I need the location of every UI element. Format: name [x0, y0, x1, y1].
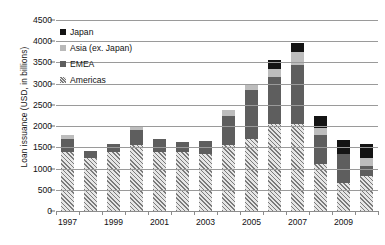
- bar-2008: [314, 20, 327, 211]
- legend-item-asia: Asia (ex. Japan): [60, 40, 180, 56]
- bar-segment: [222, 145, 235, 211]
- bar-segment: [314, 135, 327, 165]
- bar-segment: [61, 152, 74, 211]
- x-tick-label: 1997: [48, 217, 88, 227]
- gridline: [56, 169, 378, 170]
- bar-2005: [245, 20, 258, 211]
- gridline: [56, 147, 378, 148]
- bar-segment: [291, 65, 304, 124]
- legend-label-asia: Asia (ex. Japan): [70, 44, 132, 53]
- bar-segment: [314, 128, 327, 134]
- y-tick-label: 2000: [12, 121, 52, 131]
- x-tick-mark: [378, 211, 379, 215]
- y-tick-label: 4500: [12, 15, 52, 25]
- bar-segment: [153, 139, 166, 152]
- bar-segment: [153, 152, 166, 211]
- bar-segment: [337, 183, 350, 211]
- y-tick-label: 2500: [12, 100, 52, 110]
- bar-2003: [199, 20, 212, 211]
- bar-segment: [245, 90, 258, 139]
- bar-segment: [360, 158, 373, 166]
- bar-segment: [84, 158, 97, 211]
- bar-segment: [291, 124, 304, 211]
- legend-swatch-japan-icon: [60, 29, 66, 35]
- legend-label-japan: Japan: [70, 28, 93, 37]
- bar-segment: [107, 152, 120, 211]
- legend-label-americas: Americas: [70, 76, 106, 85]
- legend-item-americas: Americas: [60, 72, 180, 88]
- x-tick-label: 2003: [186, 217, 226, 227]
- bar-2006: [268, 20, 281, 211]
- legend-label-emea: EMEA: [70, 60, 94, 69]
- bar-segment: [130, 127, 143, 130]
- bar-segment: [130, 130, 143, 145]
- y-tick-label: 500: [12, 185, 52, 195]
- y-tick-label: 0: [12, 206, 52, 216]
- bar-2010: [360, 20, 373, 211]
- bar-segment: [61, 135, 74, 138]
- legend-swatch-americas-icon: [60, 77, 66, 83]
- y-tick-label: 1500: [12, 142, 52, 152]
- y-tick-label: 4000: [12, 36, 52, 46]
- gridline: [56, 105, 378, 106]
- x-tick-label: 2007: [278, 217, 318, 227]
- bar-segment: [61, 139, 74, 152]
- y-tick-label: 3500: [12, 57, 52, 67]
- legend-swatch-asia-icon: [60, 45, 66, 51]
- bar-segment: [245, 85, 258, 91]
- gridline: [56, 20, 378, 21]
- x-tick-label: 1999: [94, 217, 134, 227]
- bar-segment: [245, 139, 258, 211]
- bar-segment: [84, 151, 97, 158]
- bar-segment: [222, 110, 235, 116]
- x-tick-label: 2009: [324, 217, 364, 227]
- bar-segment: [199, 154, 212, 211]
- x-tick-label: 2005: [232, 217, 272, 227]
- bar-2009: [337, 20, 350, 211]
- x-axis-line: [56, 211, 378, 212]
- bar-segment: [268, 69, 281, 77]
- gridline: [56, 126, 378, 127]
- legend-item-japan: Japan: [60, 24, 180, 40]
- y-tick-label: 1000: [12, 164, 52, 174]
- legend-item-emea: EMEA: [60, 56, 180, 72]
- chart-legend: Japan Asia (ex. Japan) EMEA Americas: [60, 24, 180, 88]
- bar-segment: [176, 152, 189, 211]
- bar-segment: [268, 124, 281, 211]
- y-tick-label: 3000: [12, 79, 52, 89]
- bar-segment: [360, 176, 373, 211]
- bar-segment: [291, 43, 304, 51]
- bar-segment: [360, 166, 373, 176]
- bar-segment: [314, 164, 327, 211]
- bar-2007: [291, 20, 304, 211]
- gridline: [56, 190, 378, 191]
- bar-segment: [360, 144, 373, 158]
- bar-segment: [130, 145, 143, 211]
- x-tick-label: 2001: [140, 217, 180, 227]
- bar-segment: [222, 116, 235, 146]
- bar-2004: [222, 20, 235, 211]
- legend-swatch-emea-icon: [60, 61, 66, 67]
- stacked-bar-chart: Loan issuance (USD, in billions) 0500100…: [0, 0, 385, 245]
